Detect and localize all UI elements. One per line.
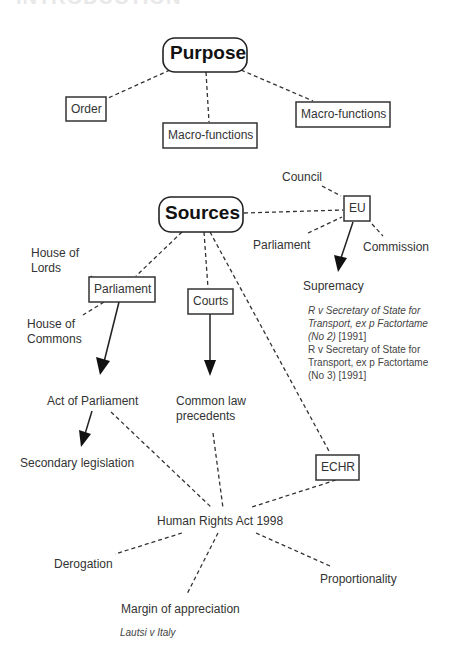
connector-commons — [83, 302, 104, 315]
sources-title: Sources — [165, 202, 240, 224]
house-of-lords-label-line1: House of — [31, 246, 79, 260]
connector-eu-parliament — [308, 217, 342, 233]
eu-label: EU — [349, 201, 366, 215]
connector-purpose-order — [106, 70, 170, 99]
macro-functions-label-2: Macro-functions — [301, 107, 386, 121]
arrowhead-secondary — [79, 430, 91, 447]
parliament-label: Parliament — [94, 282, 151, 296]
arrowhead-supremacy — [334, 255, 347, 272]
connector-hra-derogation — [115, 533, 182, 554]
house-of-commons-label-line2: Commons — [27, 332, 82, 346]
macro-functions-label-1: Macro-functions — [168, 128, 253, 142]
arrow-act-secondary — [85, 411, 92, 434]
hra-label: Human Rights Act 1998 — [157, 514, 283, 528]
case-line: R v Secretary of State for — [308, 305, 420, 316]
connector-sources-parliament — [136, 232, 182, 276]
order-label: Order — [71, 102, 102, 116]
supremacy-label: Supremacy — [303, 279, 364, 293]
house-of-lords-label-line2: Lords — [31, 261, 61, 275]
house-of-commons-label-line1: House of — [27, 317, 75, 331]
common-law-label-line2: precedents — [176, 409, 235, 423]
secondary-legislation-label: Secondary legislation — [20, 456, 134, 470]
derogation-label: Derogation — [54, 557, 113, 571]
connector-common-law-hra — [213, 433, 223, 508]
case-line: Transport, ex p Factortame — [308, 318, 428, 329]
eu-commission-label: Commission — [363, 240, 429, 254]
connector-echr-hra — [252, 480, 336, 507]
echr-label: ECHR — [321, 460, 355, 474]
margin-of-appreciation-label: Margin of appreciation — [121, 602, 240, 616]
case-line: R v Secretary of State for — [308, 344, 420, 355]
connector-hra-proportionality — [256, 533, 330, 566]
case-year: [1991] — [336, 331, 367, 342]
lautsi-case: Lautsi v Italy — [120, 626, 176, 639]
purpose-title: Purpose — [170, 42, 246, 64]
arrowhead-common-law — [204, 360, 216, 376]
courts-label: Courts — [193, 294, 228, 308]
connector-hra-margin — [187, 533, 218, 594]
arrowhead-act — [96, 357, 110, 375]
case-line: (No 3) [1991] — [308, 370, 366, 381]
connector-sources-courts — [204, 232, 208, 288]
act-of-parliament-label: Act of Parliament — [47, 394, 138, 408]
case-line: (No 2) — [308, 331, 336, 342]
connector-purpose-macro2 — [241, 70, 313, 101]
case-line: Transport, ex p Factortame — [308, 357, 428, 368]
proportionality-label: Proportionality — [320, 572, 397, 586]
connector-eu-commission — [372, 224, 383, 236]
arrow-parliament-act — [104, 302, 119, 362]
connector-eu-council — [322, 186, 341, 196]
connector-sources-eu — [244, 210, 343, 213]
arrow-eu-supremacy — [341, 222, 353, 258]
eu-parliament-label: Parliament — [253, 238, 310, 252]
factortame-no3-case: R v Secretary of State for Transport, ex… — [308, 343, 428, 382]
factortame-no2-case: R v Secretary of State for Transport, ex… — [308, 304, 428, 343]
connector-purpose-macro1 — [206, 72, 209, 122]
eu-council-label: Council — [282, 170, 322, 184]
common-law-label-line1: Common law — [176, 394, 246, 408]
